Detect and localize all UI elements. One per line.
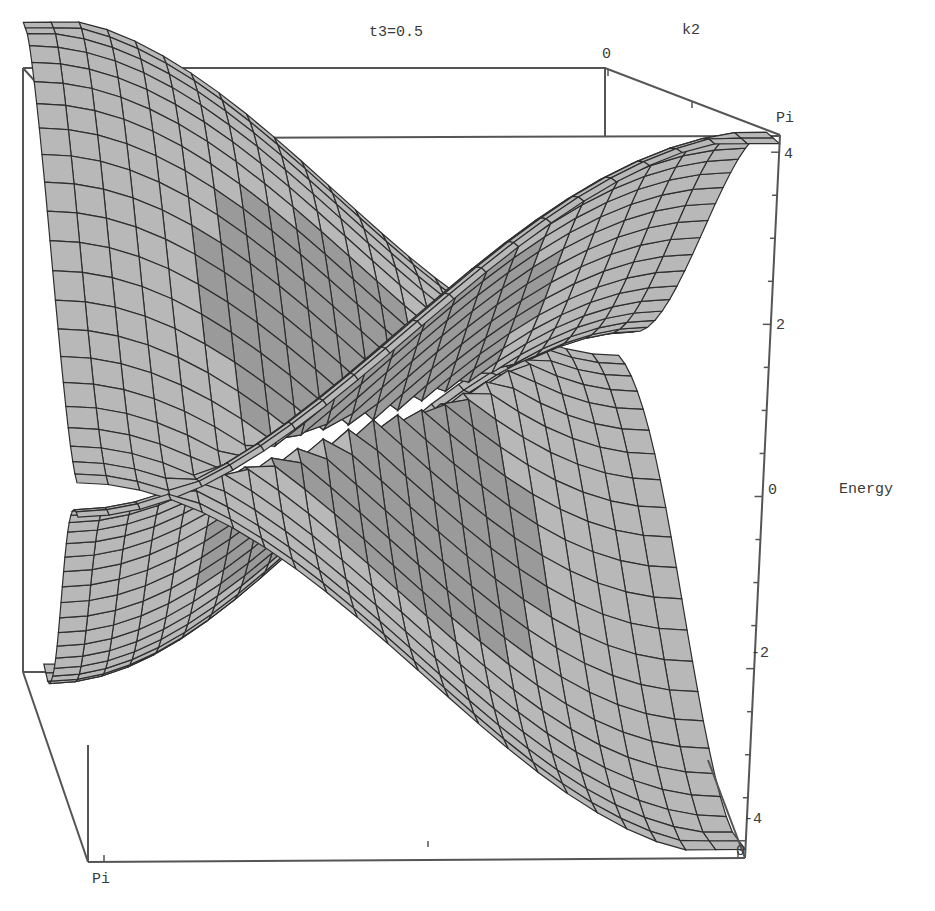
surface-patch (37, 104, 69, 130)
plot-title: t3=0.5 (369, 24, 423, 41)
surface-patch (58, 329, 91, 358)
energy-tick-minus-4: -4 (744, 811, 762, 828)
energy-axis-label: Energy (839, 481, 893, 498)
surface-patch (39, 128, 71, 156)
surface-patch (50, 241, 82, 273)
surface-patch (34, 82, 65, 106)
surface-plot (0, 0, 935, 911)
surface-patch (61, 357, 94, 385)
surface-patch (47, 211, 79, 242)
surface-patch (66, 406, 99, 429)
surface-patch (58, 616, 87, 633)
surface-patch (63, 382, 96, 408)
surface-patch (75, 474, 108, 485)
surface-patch (45, 182, 77, 213)
surface-patch (68, 428, 101, 448)
energy-tick-2: 2 (776, 317, 785, 334)
surface-patch (42, 154, 74, 184)
surface-patch (25, 28, 55, 34)
k1-tick-zero: 0 (736, 843, 745, 860)
k2-axis-label: k2 (682, 22, 700, 39)
surface-patch (62, 570, 92, 587)
surface-patch (32, 62, 63, 83)
surface-patch (71, 446, 104, 463)
energy-tick-4: 4 (784, 146, 793, 163)
energy-band-surfaces (23, 22, 779, 850)
k2-tick-pi: Pi (776, 110, 794, 127)
surface-patch (60, 601, 89, 618)
surface-patch (30, 46, 61, 64)
surface-patch (55, 300, 88, 331)
surface-patch (23, 22, 53, 28)
k1-tick-pi: Pi (92, 871, 110, 888)
surface-patch (64, 555, 94, 572)
k2-tick-zero: 0 (602, 46, 611, 63)
energy-tick-minus-2: -2 (751, 645, 769, 662)
surface-patch (61, 585, 91, 603)
energy-tick-0: 0 (768, 482, 777, 499)
surface-patch (53, 271, 85, 302)
